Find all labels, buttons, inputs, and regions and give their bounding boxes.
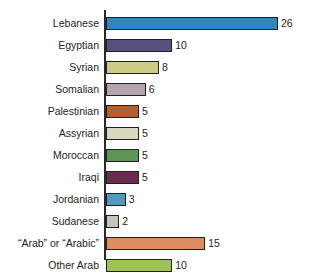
bar-group: 10 — [106, 259, 187, 272]
bar — [106, 259, 172, 272]
bar-group: 8 — [106, 61, 168, 74]
category-label: Iraqi — [0, 171, 99, 183]
bar — [106, 193, 126, 206]
bar-row: “Arab” or “Arabic” 15 — [0, 232, 315, 254]
bar-row: Moroccan 5 — [0, 144, 315, 166]
bar-row: Somalian 6 — [0, 78, 315, 100]
bar-value-label: 5 — [142, 149, 148, 161]
bar-row: Lebanese 26 — [0, 12, 315, 34]
category-label: “Arab” or “Arabic” — [0, 237, 99, 249]
bar-row: Sudanese 2 — [0, 210, 315, 232]
bar — [106, 83, 146, 96]
bar-group: 26 — [106, 17, 293, 30]
bar-group: 5 — [106, 127, 148, 140]
category-label: Sudanese — [0, 215, 99, 227]
bar-group: 2 — [106, 215, 128, 228]
category-label: Jordanian — [0, 193, 99, 205]
bar-group: 5 — [106, 171, 148, 184]
bar — [106, 171, 139, 184]
bar-row: Egyptian 10 — [0, 34, 315, 56]
bar-value-label: 8 — [162, 61, 168, 73]
bar-value-label: 10 — [175, 39, 187, 51]
bar-value-label: 26 — [281, 17, 293, 29]
bar-row: Other Arab 10 — [0, 254, 315, 276]
bar-value-label: 2 — [122, 215, 128, 227]
bar — [106, 61, 159, 74]
bar-row: Syrian 8 — [0, 56, 315, 78]
bar — [106, 39, 172, 52]
bar — [106, 237, 205, 250]
category-label: Assyrian — [0, 127, 99, 139]
category-label: Other Arab — [0, 259, 99, 271]
bar-row: Iraqi 5 — [0, 166, 315, 188]
bar — [106, 105, 139, 118]
category-label: Syrian — [0, 61, 99, 73]
bar-row: Palestinian 5 — [0, 100, 315, 122]
category-label: Egyptian — [0, 39, 99, 51]
bar-value-label: 10 — [175, 259, 187, 271]
bar-value-label: 5 — [142, 105, 148, 117]
bar-row: Jordanian 3 — [0, 188, 315, 210]
bar-group: 5 — [106, 105, 148, 118]
bar-value-label: 15 — [208, 237, 220, 249]
bar-row: Assyrian 5 — [0, 122, 315, 144]
category-label: Palestinian — [0, 105, 99, 117]
bar-chart: Lebanese 26 Egyptian 10 Syrian 8 Somalia… — [0, 0, 315, 276]
category-label: Somalian — [0, 83, 99, 95]
category-label: Moroccan — [0, 149, 99, 161]
category-label: Lebanese — [0, 17, 99, 29]
bar-value-label: 5 — [142, 171, 148, 183]
bar-group: 10 — [106, 39, 187, 52]
bar-group: 3 — [106, 193, 135, 206]
bar-value-label: 6 — [149, 83, 155, 95]
bar-value-label: 3 — [129, 193, 135, 205]
bar — [106, 17, 278, 30]
bar-group: 6 — [106, 83, 155, 96]
bar-group: 5 — [106, 149, 148, 162]
bar — [106, 149, 139, 162]
bar-value-label: 5 — [142, 127, 148, 139]
bar-group: 15 — [106, 237, 220, 250]
bar — [106, 127, 139, 140]
bar — [106, 215, 119, 228]
